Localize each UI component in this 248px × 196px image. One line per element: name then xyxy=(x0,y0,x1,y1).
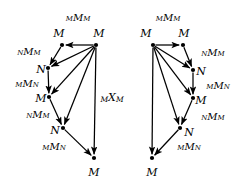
label-right-nmm-2: NMM xyxy=(201,112,225,123)
edge-l3-l4 xyxy=(48,70,49,93)
edge-l2-l4 xyxy=(52,47,95,94)
node-label-l5: N xyxy=(50,125,60,136)
label-right-mmn-2: MMN xyxy=(177,142,201,153)
node-label-l6: M xyxy=(88,167,99,178)
center-label-mxm: MXM xyxy=(100,92,123,103)
edge-r1-r4 xyxy=(154,47,190,95)
edge-r2-r3 xyxy=(184,47,192,66)
node-label-r6: M xyxy=(146,167,157,178)
edge-l2-l3 xyxy=(51,46,93,66)
node-dot-l4 xyxy=(47,95,51,99)
edge-r5-r6 xyxy=(155,130,179,155)
node-dot-l2 xyxy=(94,43,98,47)
label-right-nmm: NMM xyxy=(201,48,225,59)
node-dot-l1 xyxy=(60,43,64,47)
node-dot-l6 xyxy=(92,156,96,160)
node-label-r3: N xyxy=(196,66,206,77)
node-label-l2: M xyxy=(93,28,104,39)
edge-l4-l5 xyxy=(50,99,61,124)
node-dot-l3 xyxy=(46,66,50,70)
node-label-r5: N xyxy=(184,127,194,138)
node-dot-r1 xyxy=(151,43,155,47)
edge-r4-r5 xyxy=(182,100,193,124)
edge-l2-l6 xyxy=(94,47,96,154)
label-left-nmm: NMM xyxy=(17,47,41,58)
node-dot-r2 xyxy=(181,43,185,47)
label-left-nmm-2: NMM xyxy=(26,110,50,121)
label-left-top: MMM xyxy=(66,13,91,24)
node-dot-r5 xyxy=(178,126,182,130)
node-dot-r6 xyxy=(150,156,154,160)
diagram-canvas: MMNMNMMMMNMMMMNNMMMMNMMNMNMMMMNMMMMNNMMM… xyxy=(0,0,248,196)
label-right-top: MMM xyxy=(156,13,181,24)
label-left-mmn: MMN xyxy=(15,79,39,90)
node-label-l1: M xyxy=(53,28,64,39)
edge-l5-l6 xyxy=(65,130,92,156)
node-dot-l5 xyxy=(61,126,65,130)
node-label-l3: N xyxy=(36,64,46,75)
node-dot-r3 xyxy=(191,68,195,72)
node-label-r1: M xyxy=(140,28,151,39)
edge-r1-r6 xyxy=(152,47,153,154)
node-label-r2: M xyxy=(178,28,189,39)
edge-l2-l5 xyxy=(64,47,95,124)
label-left-mmn-2: MMN xyxy=(42,142,66,153)
node-label-l4: M xyxy=(35,93,46,104)
node-label-r4: M xyxy=(195,95,206,106)
label-right-mmn: MMN xyxy=(206,81,230,92)
